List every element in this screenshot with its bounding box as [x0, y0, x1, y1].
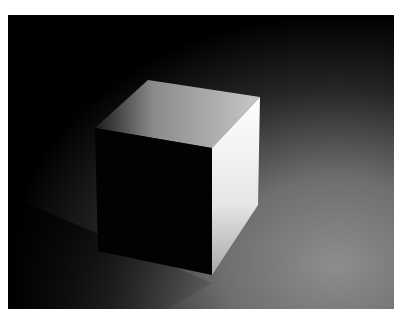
rendered-cube-image — [8, 15, 394, 309]
cube-scene — [8, 15, 394, 309]
cube-front-face — [95, 128, 212, 275]
